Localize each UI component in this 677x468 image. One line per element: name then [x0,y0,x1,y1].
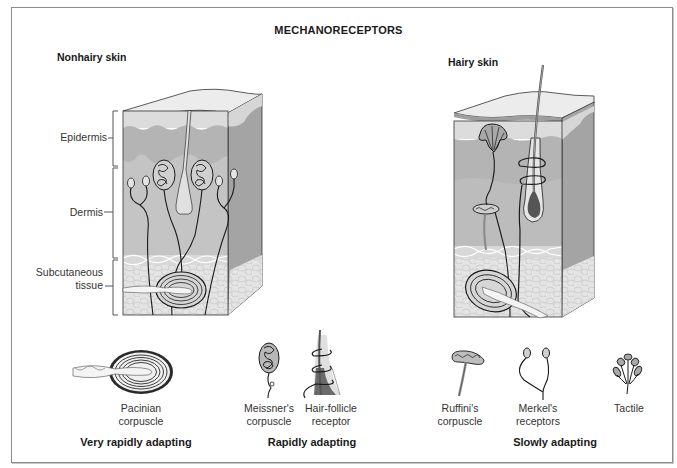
group-very-rapidly-adapting: Very rapidly adapting [56,436,216,448]
hairy-skin-block [454,65,594,319]
group-rapidly-adapting: Rapidly adapting [252,436,372,448]
ruffini-label-line2: corpuscle [430,415,490,428]
tactile-label: Tactile [606,402,652,415]
pacinian-corpuscle-icon [73,350,173,394]
layer-bracket [104,111,118,315]
ruffini-corpuscle-icon [452,351,484,396]
merkel-label-line1: Merkel's [506,402,570,415]
hair-follicle-receptor-icon [304,330,340,398]
tactile-disk-icon [612,354,643,394]
nonhairy-skin-block [123,89,262,315]
pacinian-label-line2: corpuscle [106,415,176,428]
hair-follicle-label-line2: receptor [296,415,366,428]
merkel-receptors-icon [519,348,549,400]
meissner-label-line2: corpuscle [236,415,302,428]
meissner-corpuscle-icon [259,343,279,398]
meissner-label-line1: Meissner's [236,402,302,415]
merkel-label-line2: receptors [506,415,570,428]
hair-follicle-label-line1: Hair-follicle [296,402,366,415]
ruffini-label-line1: Ruffini's [430,402,490,415]
group-slowly-adapting: Slowly adapting [500,436,610,448]
hairy-skin-title: Hairy skin [448,56,498,68]
skin-diagrams [0,0,677,468]
pacinian-label-line1: Pacinian [106,402,176,415]
